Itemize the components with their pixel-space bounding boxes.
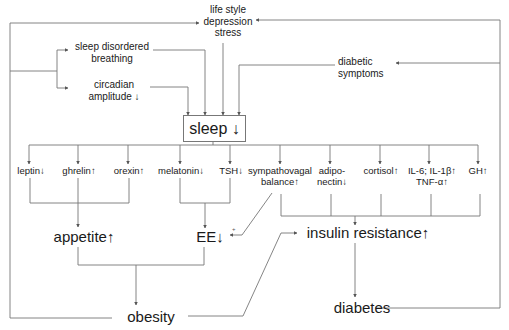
sympathovagal-line-2: balance↑ — [247, 177, 313, 188]
adiponectin-node: adipo- nectin↓ — [314, 166, 350, 188]
sleep-node: sleep ↓ — [183, 115, 246, 142]
circadian-line-1: circadian — [82, 79, 146, 91]
sleep-disordered-breathing-node: sleep disordered breathing — [70, 41, 154, 64]
plus-sign: + — [232, 226, 236, 233]
melatonin-node: melatonin↓ — [154, 166, 208, 177]
stress-line: stress — [202, 27, 254, 39]
diagram-canvas: life style depression stress sleep disor… — [0, 0, 509, 330]
gh-node: GH↑ — [463, 166, 493, 177]
sdb-line-1: sleep disordered — [70, 41, 154, 53]
circadian-amplitude-node: circadian amplitude ↓ — [82, 79, 146, 102]
cortisol-node: cortisol↑ — [360, 166, 402, 177]
obesity-node: obesity — [113, 308, 189, 325]
adiponectin-line-2: nectin↓ — [314, 177, 350, 188]
diabetic-line-1: diabetic — [338, 56, 394, 68]
interleukins-node: IL-6; IL-1β↑ TNF-α↑ — [404, 166, 460, 188]
circadian-line-2: amplitude ↓ — [82, 91, 146, 103]
appetite-node: appetite↑ — [44, 228, 124, 245]
diabetic-symptoms-node: diabetic symptoms — [338, 56, 394, 79]
insulin-resistance-node: insulin resistance↑ — [300, 224, 436, 241]
sympathovagal-node: sympathovagal balance↑ — [247, 166, 313, 188]
ee-node: EE↓ — [192, 228, 228, 245]
leptin-node: leptin↓ — [15, 166, 47, 177]
tsh-node: TSH↓ — [218, 166, 244, 177]
ghrelin-node: ghrelin↑ — [58, 166, 100, 177]
sleep-label: sleep ↓ — [189, 120, 240, 138]
lifestyle-node: life style depression stress — [202, 4, 254, 39]
depression-line: depression — [202, 16, 254, 28]
diabetes-node: diabetes — [332, 299, 392, 316]
diabetic-line-2: symptoms — [338, 68, 394, 80]
lifestyle-line: life style — [202, 4, 254, 16]
orexin-node: orexin↑ — [110, 166, 148, 177]
tnf-alpha-line: TNF-α↑ — [404, 177, 460, 188]
sdb-line-2: breathing — [70, 53, 154, 65]
